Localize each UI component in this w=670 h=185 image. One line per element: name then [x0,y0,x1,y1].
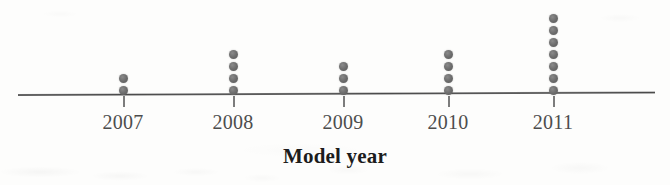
data-dot [549,26,558,35]
data-dot [229,62,238,71]
data-dot [119,86,128,95]
data-dot [339,86,348,95]
data-dot [549,62,558,71]
tick-mark-2008 [233,96,235,107]
data-dot [444,74,453,83]
data-dot [444,86,453,95]
data-dot [229,86,238,95]
tick-label-2010: 2010 [403,110,493,134]
data-dot [229,74,238,83]
x-axis-title: Model year [0,143,670,169]
tick-label-2011: 2011 [508,110,598,134]
data-dot [549,50,558,59]
data-dot [339,74,348,83]
tick-mark-2009 [343,96,345,107]
data-dot [229,50,238,59]
data-dot [549,86,558,95]
data-dot [119,74,128,83]
data-dot [444,62,453,71]
tick-mark-2007 [123,96,125,107]
data-dot [444,50,453,59]
data-dot [339,62,348,71]
tick-label-2007: 2007 [78,110,168,134]
x-axis-line [18,92,655,96]
tick-mark-2011 [553,96,555,107]
data-dot [549,14,558,23]
tick-label-2009: 2009 [298,110,388,134]
tick-mark-2010 [448,96,450,107]
data-dot [549,38,558,47]
dot-plot-figure: 20072008200920102011 Model year [0,0,670,185]
data-dot [549,74,558,83]
tick-label-2008: 2008 [188,110,278,134]
